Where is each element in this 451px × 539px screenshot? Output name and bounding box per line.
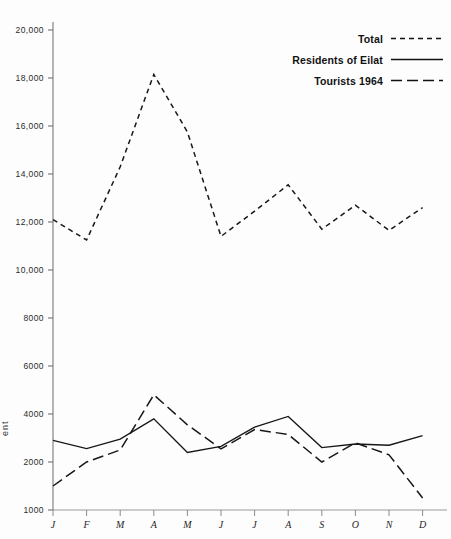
x-axis-tick-label: S xyxy=(319,519,324,530)
legend-label: Residents of Eilat xyxy=(292,54,383,66)
x-axis-tick-label: J xyxy=(51,519,55,530)
y-axis-tick-label: 1000 xyxy=(0,505,44,515)
series-line-residents-of-eilat xyxy=(53,416,423,452)
series-line-tourists-1964 xyxy=(53,395,423,498)
x-axis-tick-label: M xyxy=(183,519,191,530)
x-axis-tick-label: J xyxy=(252,519,256,530)
x-axis-tick-label: M xyxy=(116,519,124,530)
chart-series xyxy=(53,74,423,498)
y-axis-tick-label: 4000 xyxy=(0,409,44,419)
series-line-total xyxy=(53,74,423,240)
legend-swatch-dotted-icon xyxy=(390,34,444,43)
x-axis-tick-label: J xyxy=(219,519,223,530)
y-axis-tick-label: 8000 xyxy=(0,313,44,323)
x-axis-tick-label: N xyxy=(386,519,393,530)
x-axis-tick-label: F xyxy=(84,519,90,530)
legend-label: Total xyxy=(358,33,383,45)
y-axis-tick-label: 10,000 xyxy=(0,265,44,275)
legend-label: Tourists 1964 xyxy=(314,75,383,87)
legend-item-tourists-1964: Tourists 1964 xyxy=(268,72,444,89)
legend-item-total: Total xyxy=(268,30,444,47)
x-axis-tick-label: A xyxy=(285,519,291,530)
y-axis-tick-label: 20,000 xyxy=(0,25,44,35)
legend-swatch-dashed-icon xyxy=(390,76,444,85)
legend-swatch-solid-icon xyxy=(390,55,444,64)
x-axis-tick-label: O xyxy=(352,519,359,530)
y-axis-tick-label: 2000 xyxy=(0,457,44,467)
y-axis-tick-label: 18,000 xyxy=(0,73,44,83)
chart-axes xyxy=(48,22,447,516)
x-axis-tick-label: D xyxy=(419,519,426,530)
legend-item-residents-of-eilat: Residents of Eilat xyxy=(268,51,444,68)
y-axis-tick-label: 6000 xyxy=(0,361,44,371)
chart-legend: TotalResidents of EilatTourists 1964 xyxy=(268,30,444,93)
y-axis-tick-label: 12,000 xyxy=(0,217,44,227)
y-axis-tick-label: 16,000 xyxy=(0,121,44,131)
y-axis-tick-label: 14,000 xyxy=(0,169,44,179)
chart-figure: ent 1000200040006000800010,00012,00014,0… xyxy=(0,0,451,539)
x-axis-tick-label: A xyxy=(151,519,157,530)
